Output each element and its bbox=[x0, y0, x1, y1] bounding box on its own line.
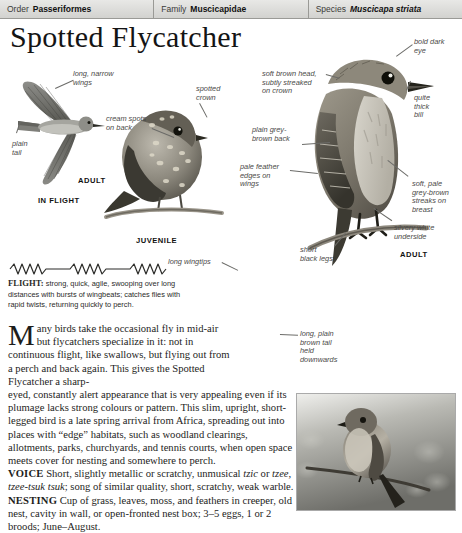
annotation-soft-brown-head: soft brown head, subtly streaked on crow… bbox=[262, 70, 317, 96]
voice-call-a: tzic bbox=[243, 468, 258, 479]
voice-section: VOICE Short, slightly metallic or scratc… bbox=[8, 467, 296, 493]
taxonomy-header: Order Passeriformes Family Muscicapidae … bbox=[0, 0, 462, 19]
voice-text-a: Short, slightly metallic or scratchy, un… bbox=[44, 468, 244, 479]
family-value: Muscicapidae bbox=[190, 4, 246, 14]
flight-pattern-diagram bbox=[8, 262, 213, 276]
annotation-quite-thick-bill: quite thick bill bbox=[414, 94, 430, 120]
leader-long-wingtips bbox=[222, 262, 239, 271]
nesting-label: NESTING bbox=[8, 495, 57, 506]
family-label: Family bbox=[161, 4, 186, 14]
annotation-long-plain-brown-tail: long, plain brown tail held downwards bbox=[300, 330, 337, 364]
paragraph-first: Many birds take the occasional fly in mi… bbox=[8, 322, 230, 388]
species-photograph bbox=[296, 393, 456, 511]
annotation-short-black-legs: short black legs bbox=[300, 246, 333, 263]
species-label: Species bbox=[316, 4, 346, 14]
drop-cap: M bbox=[8, 322, 37, 347]
paragraph-second: eyed, constantly alert appearance that i… bbox=[8, 388, 296, 467]
paragraph-first-text: any birds take the occasional fly in mid… bbox=[8, 323, 230, 387]
annotation-long-narrow-wings: long, narrow wings bbox=[73, 70, 114, 87]
annotation-spotted-crown: spotted crown bbox=[196, 85, 220, 102]
voice-label: VOICE bbox=[8, 468, 44, 479]
order-value: Passeriformes bbox=[33, 4, 92, 14]
annotation-bold-dark-eye: bold dark eye bbox=[414, 38, 444, 55]
label-juvenile: JUVENILE bbox=[136, 236, 177, 245]
annotation-plain-grey-brown-back: plain grey- brown back bbox=[252, 126, 290, 143]
annotation-plain-tail: plain tail bbox=[12, 140, 28, 157]
voice-text-c: ; song of similar quality, short, scratc… bbox=[65, 481, 294, 492]
label-in-flight: IN FLIGHT bbox=[38, 196, 80, 205]
species-description: Many birds take the occasional fly in mi… bbox=[8, 322, 296, 533]
annotation-cream-spots-on-back: cream spots on back bbox=[106, 115, 146, 132]
header-cell-species: Species Muscicapa striata bbox=[309, 0, 462, 18]
annotation-soft-pale-streaks: soft, pale grey-brown streaks on breast bbox=[412, 180, 449, 214]
flight-description: FLIGHT: strong, quick, agile, swooping o… bbox=[8, 278, 198, 311]
header-cell-order: Order Passeriformes bbox=[0, 0, 154, 18]
annotation-pale-feather-edges: pale feather edges on wings bbox=[240, 163, 279, 189]
label-adult-perched: ADULT bbox=[400, 250, 428, 259]
flight-label: FLIGHT: bbox=[8, 278, 44, 288]
order-label: Order bbox=[7, 4, 29, 14]
page-title: Spotted Flycatcher bbox=[10, 20, 241, 54]
species-value: Muscicapa striata bbox=[350, 4, 421, 14]
annotation-silvery-white-underside: silvery white underside bbox=[394, 224, 434, 241]
header-cell-family: Family Muscicapidae bbox=[154, 0, 308, 18]
nesting-section: NESTING Cup of grass, leaves, moss, and … bbox=[8, 494, 296, 533]
voice-text-b: or bbox=[258, 468, 272, 479]
